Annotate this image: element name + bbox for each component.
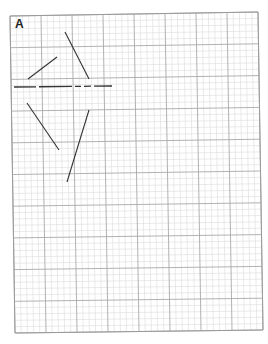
dashed-horizontal-line: [14, 86, 112, 87]
graph-paper-figure: A: [0, 0, 268, 344]
panel-label: A: [15, 18, 24, 30]
graph-paper-grid: [0, 0, 268, 344]
line-segment-lower-right: [67, 110, 89, 182]
